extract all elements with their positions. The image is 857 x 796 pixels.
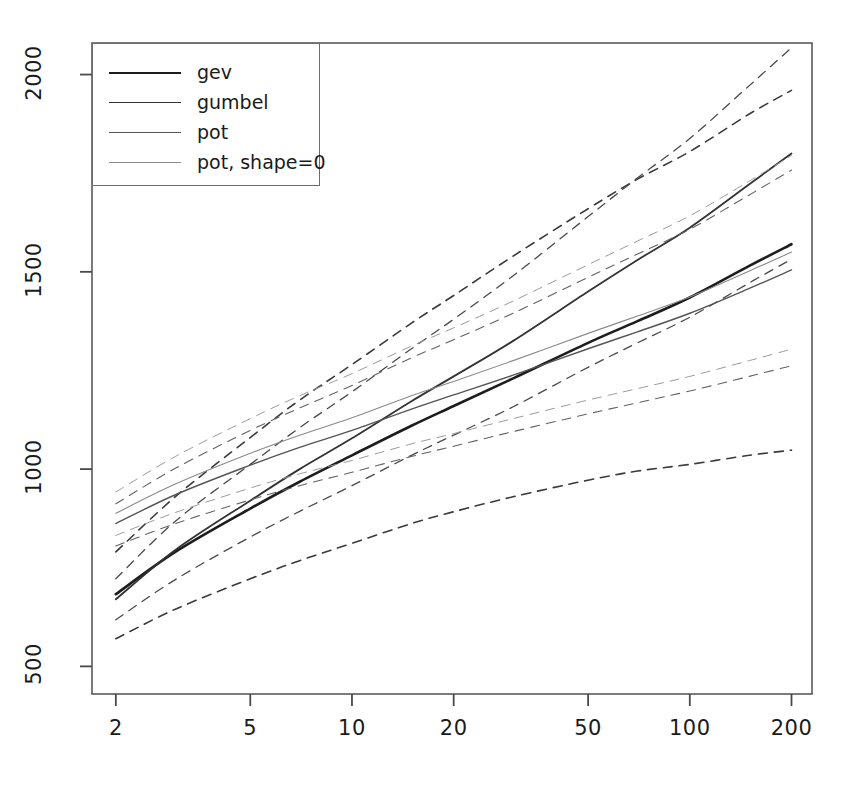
y-tick-label-500: 500 (22, 636, 46, 692)
x-tick-label-100: 100 (655, 716, 725, 740)
legend-entry-pot-shape-0: pot, shape=0 (93, 148, 319, 177)
legend-line-swatch (109, 102, 181, 103)
x-tick-label-10: 10 (317, 716, 387, 740)
y-tick-label-1500: 1500 (22, 242, 46, 298)
legend: gevgumbelpotpot, shape=0 (92, 43, 320, 186)
legend-entry-gumbel: gumbel (93, 88, 319, 117)
legend-label: gumbel (197, 91, 269, 113)
series-line-pot-shape-0 (116, 252, 792, 513)
x-tick-label-2: 2 (81, 716, 151, 740)
legend-entry-pot: pot (93, 118, 319, 147)
x-tick-label-50: 50 (553, 716, 623, 740)
series-line-pot-upper-ci (116, 170, 792, 504)
series-line-pot-lower-ci (116, 366, 792, 546)
legend-entry-gev: gev (93, 58, 319, 87)
y-tick-label-1000: 1000 (22, 439, 46, 495)
series-line-pot-shape0-upper-ci (116, 155, 792, 492)
legend-label: pot (197, 121, 228, 143)
legend-label: gev (197, 61, 232, 83)
x-tick-label-20: 20 (419, 716, 489, 740)
x-tick-label-200: 200 (756, 716, 826, 740)
series-line-pot (116, 270, 792, 524)
return-level-plot-figure: 500100015002000 25102050100200 gevgumbel… (0, 0, 857, 796)
legend-line-swatch (109, 72, 181, 74)
legend-line-swatch (109, 132, 181, 133)
y-tick-label-2000: 2000 (22, 45, 46, 101)
legend-line-swatch (109, 162, 181, 163)
x-tick-label-5: 5 (215, 716, 285, 740)
legend-label: pot, shape=0 (197, 151, 326, 173)
